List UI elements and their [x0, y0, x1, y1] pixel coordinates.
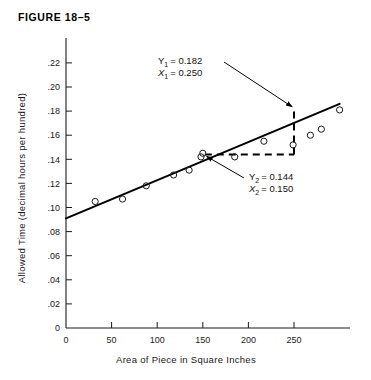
scatter-point	[92, 198, 98, 204]
annotation-2-eq-2: = 0.150	[261, 183, 293, 194]
y-tick-label: .12	[47, 179, 60, 189]
x-axis-title: Area of Piece in Square Inches	[116, 354, 256, 365]
x-tick-label: 150	[195, 335, 210, 345]
y-tick-label: .16	[47, 130, 60, 140]
leader-line-1	[224, 62, 292, 107]
scatter-point	[307, 132, 313, 138]
chart-axes	[66, 38, 350, 328]
y-tick-label: .14	[47, 155, 60, 165]
x-tick-label: 0	[63, 335, 68, 345]
annotation-1-sub-2: 1	[164, 73, 168, 80]
annotation-2-sub-1: 2	[255, 177, 259, 184]
annotation-1-eq-1: = 0.182	[170, 55, 202, 66]
scatter-point	[337, 107, 343, 113]
x-tick-label: 250	[286, 335, 301, 345]
annotation-2-eq-1: = 0.144	[261, 171, 293, 182]
annotation-1-eq-2: = 0.250	[170, 67, 202, 78]
scatter-point	[119, 196, 125, 202]
scatter-point	[186, 167, 192, 173]
figure-container: FIGURE 18–5 0.02.04.06.08.10.12.14.16.18…	[0, 0, 371, 380]
y-axis-ticks	[66, 63, 72, 304]
annotation-1-sub-1: 1	[164, 61, 168, 68]
y-tick-label: .20	[47, 82, 60, 92]
x-axis-tick-labels: 050100150200250	[63, 335, 301, 345]
x-axis-ticks	[112, 322, 294, 328]
y-tick-label: .10	[47, 203, 60, 213]
x-tick-label: 50	[107, 335, 117, 345]
y-axis-tick-labels: 0.02.04.06.08.10.12.14.16.18.20.22	[47, 58, 60, 333]
scatter-point	[290, 142, 296, 148]
annotation-2-line-2: X2= 0.150	[248, 183, 293, 196]
x-tick-label: 100	[150, 335, 165, 345]
y-tick-label: .18	[47, 106, 60, 116]
y-axis-title: Allowed Time (decimal hours per hundred)	[16, 93, 27, 283]
annotation-2: Y2= 0.144 X2= 0.150	[248, 171, 293, 196]
scatter-point	[261, 138, 267, 144]
x-tick-label: 200	[241, 335, 256, 345]
construction-triangle	[205, 109, 294, 155]
annotation-1-line-2: X1= 0.250	[157, 67, 202, 80]
scatter-point	[318, 126, 324, 132]
y-tick-label: 0	[55, 323, 60, 333]
trend-line	[66, 104, 340, 218]
y-tick-label: .22	[47, 58, 60, 68]
annotation-2-line-1: Y2= 0.144	[249, 171, 293, 184]
scatter-point	[198, 154, 204, 160]
annotation-2-sub-2: 2	[255, 189, 259, 196]
y-tick-label: .06	[47, 251, 60, 261]
y-tick-label: .08	[47, 227, 60, 237]
leader-line-2	[207, 156, 244, 178]
scatter-point	[200, 150, 206, 156]
y-tick-label: .04	[47, 275, 60, 285]
annotation-leaders	[207, 62, 292, 178]
annotation-1-line-1: Y1= 0.182	[158, 55, 202, 68]
scatter-chart: 0.02.04.06.08.10.12.14.16.18.20.22 05010…	[0, 0, 371, 380]
y-tick-label: .02	[47, 299, 60, 309]
annotation-1: Y1= 0.182 X1= 0.250	[157, 55, 202, 80]
